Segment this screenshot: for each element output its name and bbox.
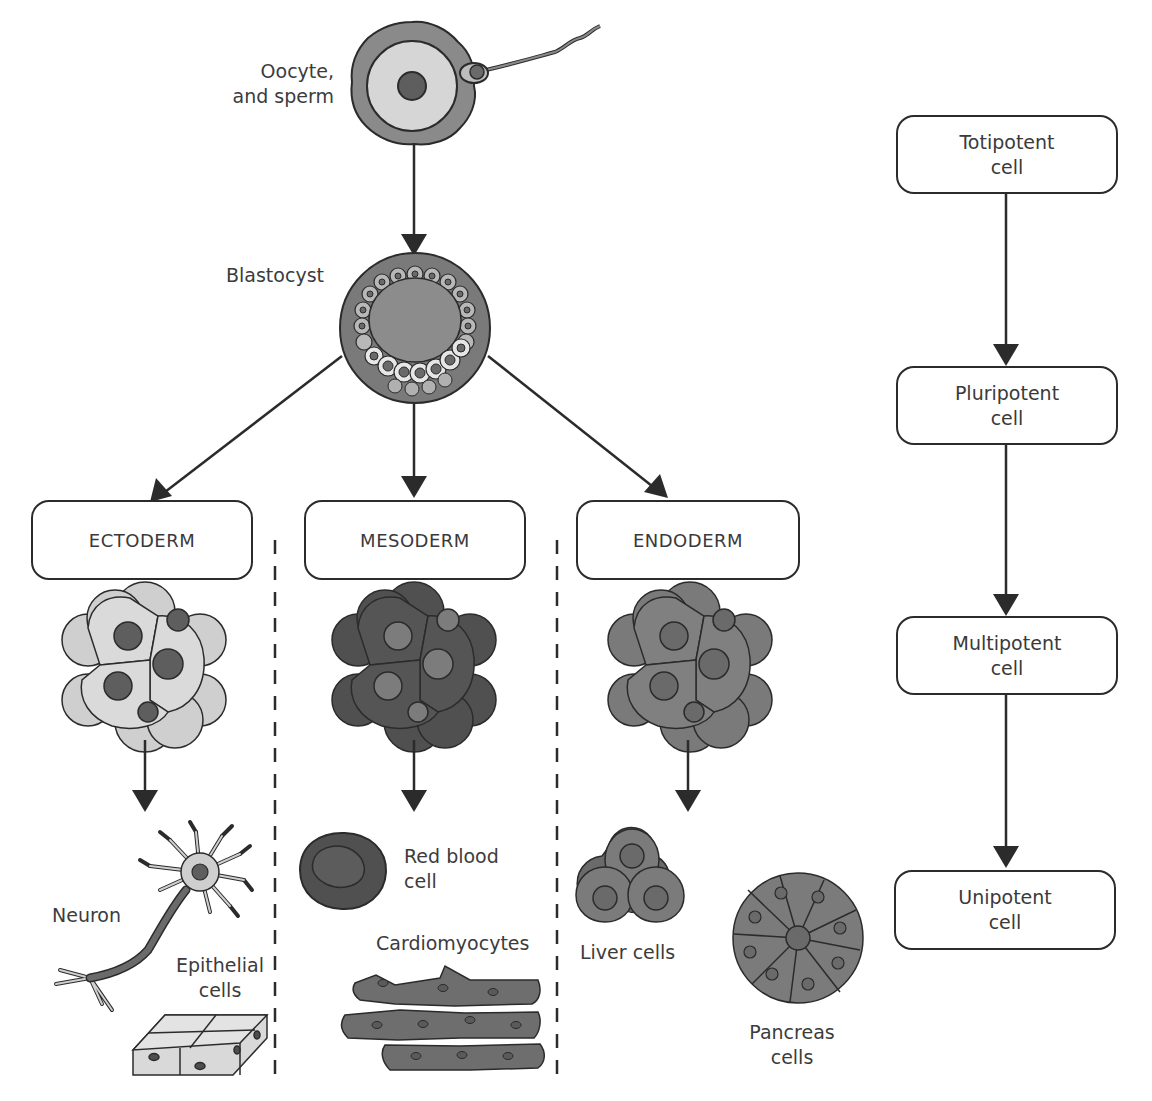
rbc-label-line1: Red blood	[404, 844, 499, 869]
pancreas-cells-label: Pancreas cells	[742, 1020, 842, 1070]
cell-differentiation-diagram: Oocyte, and sperm Blastocyst ECTODERM ME…	[0, 0, 1152, 1101]
totipotent-label: Totipotent	[959, 130, 1054, 155]
unipotent-box: Unipotent cell	[894, 870, 1116, 950]
endoderm-cell-cluster-icon	[608, 582, 772, 752]
neuron-label: Neuron	[52, 903, 121, 928]
ectoderm-label: ECTODERM	[89, 528, 195, 553]
rbc-label-line2: cell	[404, 869, 499, 894]
ectoderm-cell-cluster-icon	[62, 582, 226, 752]
oocyte-label-line2: and sperm	[220, 84, 334, 109]
liver-cells-label: Liver cells	[580, 940, 675, 965]
multipotent-sublabel: cell	[991, 656, 1024, 681]
oocyte-label: Oocyte, and sperm	[220, 59, 334, 109]
cardiomyocytes-label: Cardiomyocytes	[376, 931, 529, 956]
unipotent-label: Unipotent	[958, 885, 1052, 910]
pluripotent-label: Pluripotent	[955, 381, 1059, 406]
epithelial-cells-label: Epithelial cells	[168, 953, 272, 1003]
epithelial-label-line2: cells	[168, 978, 272, 1003]
red-blood-cell-label: Red blood cell	[404, 844, 499, 894]
oocyte-sperm-icon	[352, 22, 600, 145]
ectoderm-box: ECTODERM	[31, 500, 253, 580]
multipotent-label: Multipotent	[953, 631, 1062, 656]
pluripotent-sublabel: cell	[991, 406, 1024, 431]
endoderm-box: ENDODERM	[576, 500, 800, 580]
totipotent-box: Totipotent cell	[896, 115, 1118, 194]
blastocyst-icon	[340, 253, 490, 403]
pancreas-cells-icon	[733, 873, 863, 1003]
liver-cells-icon	[576, 828, 684, 922]
pluripotent-box: Pluripotent cell	[896, 366, 1118, 445]
mesoderm-cell-cluster-icon	[332, 582, 496, 752]
red-blood-cell-icon	[300, 833, 386, 909]
mesoderm-box: MESODERM	[304, 500, 526, 580]
mesoderm-label: MESODERM	[360, 528, 470, 553]
pancreas-label-line1: Pancreas	[742, 1020, 842, 1045]
totipotent-sublabel: cell	[991, 155, 1024, 180]
multipotent-box: Multipotent cell	[896, 616, 1118, 695]
oocyte-label-line1: Oocyte,	[220, 59, 334, 84]
epithelial-label-line1: Epithelial	[168, 953, 272, 978]
arrow-down-icon	[401, 145, 427, 256]
blastocyst-label: Blastocyst	[220, 263, 330, 288]
potency-arrows	[993, 193, 1019, 868]
epithelial-cells-icon	[133, 1015, 267, 1075]
endoderm-label: ENDODERM	[633, 528, 743, 553]
pancreas-label-line2: cells	[742, 1045, 842, 1070]
unipotent-sublabel: cell	[989, 910, 1022, 935]
cardiomyocytes-icon	[342, 966, 545, 1070]
